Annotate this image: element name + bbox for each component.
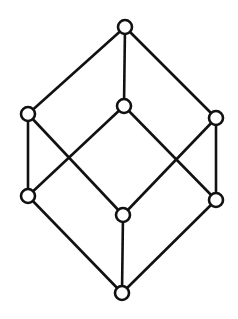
edge-mid-center-low-left xyxy=(28,106,124,196)
edge-low-left-bottom xyxy=(28,196,122,293)
node-low-left xyxy=(21,189,35,203)
edge-low-center-bottom xyxy=(122,215,123,293)
edge-low-right-bottom xyxy=(122,200,216,293)
edge-mid-right-low-center xyxy=(123,118,216,215)
edge-mid-center-low-right xyxy=(124,106,216,200)
lattice-diagram xyxy=(0,0,238,319)
node-mid-left xyxy=(21,107,35,121)
node-top xyxy=(118,20,132,34)
edge-top-mid-left xyxy=(28,27,125,114)
node-bottom xyxy=(115,286,129,300)
edge-mid-left-low-center xyxy=(28,114,123,215)
edge-top-mid-right xyxy=(125,27,216,118)
edges xyxy=(28,27,216,293)
edge-top-mid-center xyxy=(124,27,125,106)
node-low-right xyxy=(209,193,223,207)
node-low-center xyxy=(116,208,130,222)
node-mid-right xyxy=(209,111,223,125)
node-mid-center xyxy=(117,99,131,113)
